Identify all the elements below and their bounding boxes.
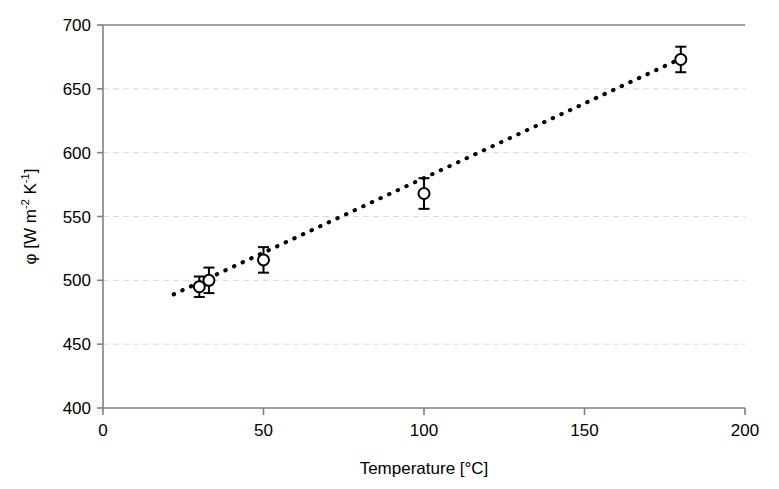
chart-figure: 400450500550600650700050100150200Tempera… — [0, 0, 779, 489]
y-tick-label: 500 — [63, 271, 91, 290]
y-axis-title: φ [W m-2 K-1] — [19, 169, 40, 265]
x-tick-label: 0 — [98, 421, 107, 440]
y-tick-label: 550 — [63, 208, 91, 227]
x-tick-label: 150 — [570, 421, 598, 440]
y-axis-ticks: 400450500550600650700 — [63, 16, 103, 418]
trend-line — [174, 56, 688, 295]
y-tick-label: 400 — [63, 399, 91, 418]
data-point — [419, 178, 430, 209]
y-tick-label: 600 — [63, 144, 91, 163]
marker-open-circle — [419, 188, 430, 199]
data-point — [675, 47, 686, 73]
y-tick-label: 650 — [63, 80, 91, 99]
gridlines — [103, 89, 745, 344]
marker-open-circle — [675, 54, 686, 65]
marker-open-circle — [203, 275, 214, 286]
x-tick-label: 200 — [731, 421, 759, 440]
y-tick-label: 700 — [63, 16, 91, 35]
y-tick-label: 450 — [63, 335, 91, 354]
x-tick-label: 100 — [410, 421, 438, 440]
x-axis-ticks: 050100150200 — [98, 408, 759, 440]
scatter-plot: 400450500550600650700050100150200Tempera… — [0, 0, 779, 489]
x-tick-label: 50 — [254, 421, 273, 440]
x-axis-title: Temperature [°C] — [360, 459, 489, 478]
marker-open-circle — [258, 254, 269, 265]
